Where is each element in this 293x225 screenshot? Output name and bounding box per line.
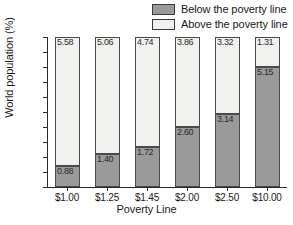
y-tick-60	[43, 97, 47, 98]
bar-segment-below-5[interactable]	[255, 67, 280, 187]
bar-1[interactable]: 1.405.06	[95, 37, 120, 187]
chart-legend: Below the poverty line Above the poverty…	[152, 3, 288, 31]
legend-label-below: Below the poverty line	[181, 4, 286, 15]
y-axis-line	[47, 37, 48, 188]
legend-label-above: Above the poverty line	[181, 19, 288, 30]
poverty-line-stacked-bar-chart: Below the poverty line Above the poverty…	[0, 0, 293, 225]
bar-value-above-4: 3.32	[215, 38, 240, 47]
y-tick-90	[43, 52, 47, 53]
y-tick-0	[43, 187, 47, 188]
bar-segment-above-1[interactable]	[95, 37, 120, 154]
bar-segment-above-3[interactable]	[175, 37, 200, 127]
bar-value-above-1: 5.06	[95, 38, 120, 47]
y-axis-title: World population (%)	[4, 3, 15, 133]
x-tick-3	[187, 187, 188, 191]
bar-value-above-2: 4.74	[135, 38, 160, 47]
y-tick-30	[43, 142, 47, 143]
y-tick-10	[43, 172, 47, 173]
legend-swatch-above	[152, 19, 175, 30]
x-axis-title: Poverty Line	[0, 204, 293, 215]
bar-segment-above-0[interactable]	[55, 37, 80, 166]
bar-segment-below-4[interactable]	[215, 114, 240, 187]
y-tick-70	[43, 82, 47, 83]
bar-2[interactable]: 1.724.74	[135, 37, 160, 187]
bar-value-below-2: 1.72	[135, 148, 160, 157]
x-tick-5	[267, 187, 268, 191]
bar-value-below-3: 2.60	[175, 128, 200, 137]
x-tick-1	[107, 187, 108, 191]
y-tick-40	[43, 127, 47, 128]
x-tick-4	[227, 187, 228, 191]
bar-4[interactable]: 3.143.32	[215, 37, 240, 187]
bar-value-above-3: 3.86	[175, 38, 200, 47]
bar-3[interactable]: 2.603.86	[175, 37, 200, 187]
y-tick-50	[43, 112, 47, 113]
y-tick-80	[43, 67, 47, 68]
x-axis-line	[47, 187, 287, 188]
bar-value-below-4: 3.14	[215, 115, 240, 124]
bar-value-below-5: 5.15	[255, 68, 280, 77]
bar-value-below-1: 1.40	[95, 155, 120, 164]
legend-swatch-below	[152, 4, 175, 15]
bar-value-below-0: 0.88	[55, 167, 80, 176]
y-tick-20	[43, 157, 47, 158]
y-tick-100	[43, 37, 47, 38]
x-tick-label-5: $10.00	[244, 193, 290, 203]
bar-segment-above-2[interactable]	[135, 37, 160, 147]
x-tick-2	[147, 187, 148, 191]
legend-item-above: Above the poverty line	[152, 18, 288, 31]
x-tick-0	[67, 187, 68, 191]
bar-5[interactable]: 5.151.31	[255, 37, 280, 187]
bar-value-above-5: 1.31	[255, 38, 280, 47]
bar-segment-above-4[interactable]	[215, 37, 240, 114]
plot-area: 0102030405060708090100 $1.00$1.25$1.45$2…	[47, 37, 287, 188]
bar-0[interactable]: 0.885.58	[55, 37, 80, 187]
legend-item-below: Below the poverty line	[152, 3, 288, 16]
bar-value-above-0: 5.58	[55, 38, 80, 47]
